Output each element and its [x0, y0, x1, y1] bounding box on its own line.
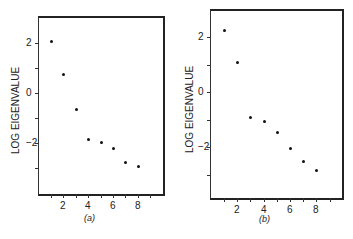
x-tick-label: 6: [287, 204, 293, 215]
panel-caption: (a): [84, 213, 95, 223]
x-tick-label: 2: [60, 200, 66, 211]
x-tick: [125, 194, 126, 198]
x-tick: [264, 198, 265, 202]
x-tick-label: 8: [135, 200, 141, 211]
x-tick-label: 4: [85, 200, 91, 211]
x-tick: [101, 194, 102, 198]
data-point: [223, 29, 226, 32]
data-point: [112, 147, 115, 150]
data-point: [62, 73, 65, 76]
data-point: [236, 61, 239, 64]
y-tick: [207, 92, 211, 93]
x-tick: [88, 194, 89, 198]
data-point: [137, 165, 140, 168]
data-point: [87, 138, 90, 141]
panel-caption: (b): [259, 214, 270, 224]
y-tick: [35, 118, 39, 119]
data-point: [315, 169, 318, 172]
y-tick: [35, 68, 39, 69]
x-tick: [113, 194, 114, 198]
x-tick: [150, 194, 151, 198]
data-point: [302, 160, 305, 163]
y-tick: [207, 65, 211, 66]
y-tick: [35, 168, 39, 169]
x-tick: [237, 198, 238, 202]
data-point: [50, 40, 53, 43]
x-tick: [63, 194, 64, 198]
x-tick: [290, 198, 291, 202]
data-point: [289, 147, 292, 150]
y-tick-label: −2: [198, 141, 209, 152]
y-tick: [35, 43, 39, 44]
y-axis-label: LOG EIGENVALUE: [184, 66, 195, 153]
x-tick: [224, 198, 225, 202]
y-tick: [207, 175, 211, 176]
data-point: [124, 161, 127, 164]
data-point: [100, 141, 103, 144]
plot-frame: [210, 9, 344, 200]
data-point: [263, 120, 266, 123]
x-tick: [51, 194, 52, 198]
x-tick-label: 2: [234, 204, 240, 215]
y-tick: [35, 93, 39, 94]
x-tick: [316, 198, 317, 202]
y-axis-label: LOG EIGENVALUE: [10, 67, 21, 154]
x-tick: [76, 194, 77, 198]
plot-frame: [38, 16, 165, 196]
x-tick-label: 6: [110, 200, 116, 211]
y-tick: [207, 120, 211, 121]
x-tick: [250, 198, 251, 202]
y-tick-label: 2: [198, 31, 204, 42]
data-point: [75, 108, 78, 111]
y-tick: [207, 37, 211, 38]
x-tick: [330, 198, 331, 202]
data-point: [249, 116, 252, 119]
y-tick-label: −2: [26, 137, 37, 148]
data-point: [276, 131, 279, 134]
x-tick: [277, 198, 278, 202]
x-tick: [303, 198, 304, 202]
x-tick-label: 8: [313, 204, 319, 215]
x-tick: [138, 194, 139, 198]
y-tick-label: 2: [26, 37, 32, 48]
y-tick-label: 0: [198, 86, 204, 97]
y-tick-label: 0: [26, 87, 32, 98]
